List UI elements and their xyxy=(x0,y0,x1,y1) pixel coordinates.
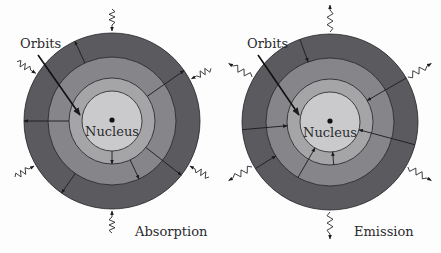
nucleus-label: Nucleus xyxy=(85,124,139,139)
outgoing-photon-icon xyxy=(408,64,431,78)
emission-atom: NucleusOrbitsEmission xyxy=(229,5,432,239)
diagram-canvas: NucleusOrbitsAbsorption NucleusOrbitsEmi… xyxy=(0,0,441,253)
nucleus-dot xyxy=(327,118,332,123)
absorption-atom: NucleusOrbitsAbsorption xyxy=(15,9,211,239)
nucleus-label: Nucleus xyxy=(303,125,357,140)
incoming-photon-icon xyxy=(15,166,34,177)
incoming-photon-icon xyxy=(17,61,36,74)
outgoing-photon-icon xyxy=(229,166,252,180)
atom-energy-level-diagram: NucleusOrbitsAbsorption NucleusOrbitsEmi… xyxy=(0,0,441,253)
outgoing-photon-icon xyxy=(327,5,333,32)
outgoing-photon-icon xyxy=(229,64,252,78)
orbits-label: Orbits xyxy=(20,36,61,51)
incoming-photon-icon xyxy=(190,166,209,178)
incoming-photon-icon xyxy=(192,68,211,78)
nucleus-dot xyxy=(109,117,114,122)
orbits-label: Orbits xyxy=(247,36,288,51)
outgoing-photon-icon xyxy=(408,167,431,181)
incoming-photon-icon xyxy=(109,211,115,233)
outgoing-photon-icon xyxy=(327,212,333,239)
emission-caption: Emission xyxy=(354,224,414,239)
incoming-photon-icon xyxy=(109,9,115,31)
absorption-caption: Absorption xyxy=(134,224,208,239)
